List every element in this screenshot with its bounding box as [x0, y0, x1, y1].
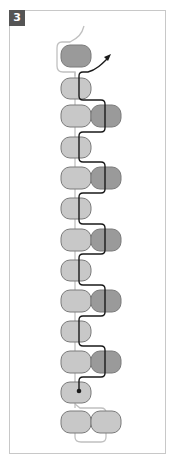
bead-row6-left — [61, 198, 91, 219]
bead-row7-left — [61, 229, 91, 251]
bead-row4-left — [61, 137, 91, 158]
bead-row5-left — [61, 167, 91, 189]
bead-row10-left — [61, 321, 91, 342]
bead-row8-left — [61, 260, 91, 281]
bead-row13-left — [61, 411, 91, 433]
bead-row13-right — [91, 411, 121, 433]
bead-row2-left — [61, 78, 91, 99]
bead-row11-right — [91, 351, 121, 373]
beading-diagram — [0, 0, 176, 461]
bead-row9-right — [91, 290, 121, 312]
bead-row5-right — [91, 167, 121, 189]
bead-row1-left — [61, 45, 91, 67]
bead-row7-right — [91, 229, 121, 251]
bead-row11-left — [61, 351, 91, 373]
bead-row9-left — [61, 290, 91, 312]
bead-row3-left — [61, 105, 91, 127]
bead-row12-left — [61, 382, 91, 403]
bead-row3-right — [91, 105, 121, 127]
thread-start-dot-icon — [77, 389, 82, 394]
beads — [61, 45, 121, 433]
